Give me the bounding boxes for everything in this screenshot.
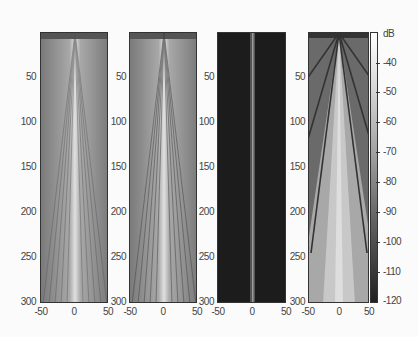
colorbar-tick-mark (376, 272, 380, 273)
colorbar-tick: -70 (383, 146, 396, 157)
colorbar-tick: -80 (383, 176, 396, 187)
y-tick: 50 (98, 71, 126, 82)
heatmap-panel-3 (217, 32, 286, 303)
y-tick: 250 (98, 251, 126, 262)
x-tick: 0 (151, 306, 175, 317)
colorbar-tick-mark (376, 63, 380, 64)
y-tick: 100 (8, 116, 36, 127)
x-tick: 50 (274, 306, 298, 317)
colorbar-tick: -110 (383, 266, 400, 277)
y-tick: 150 (8, 161, 36, 172)
y-tick: 150 (186, 161, 214, 172)
colorbar-tick: -100 (383, 236, 401, 247)
y-tick: 200 (98, 206, 126, 217)
x-tick: -50 (206, 306, 230, 317)
colorbar-tick: -50 (383, 86, 396, 97)
colorbar-tick-mark (376, 182, 380, 183)
x-tick: 50 (96, 306, 120, 317)
x-tick: -50 (296, 306, 320, 317)
x-tick: 0 (327, 306, 351, 317)
y-tick: 200 (186, 206, 214, 217)
y-tick: 200 (277, 206, 305, 217)
colorbar-tick-mark (376, 242, 380, 243)
y-tick: 200 (8, 206, 36, 217)
colorbar-label: dB (383, 28, 394, 39)
y-tick: 100 (186, 116, 214, 127)
colorbar-tick-mark (376, 152, 380, 153)
y-tick: 50 (186, 71, 214, 82)
y-tick: 50 (8, 71, 36, 82)
y-tick: 250 (277, 251, 305, 262)
colorbar-tick: -90 (383, 206, 396, 217)
y-tick: 250 (8, 251, 36, 262)
y-tick: 100 (98, 116, 126, 127)
colorbar-tick: -120 (383, 295, 401, 306)
y-tick: 100 (277, 116, 305, 127)
x-tick: 0 (240, 306, 264, 317)
colorbar-tick: -60 (383, 116, 396, 127)
y-tick: 150 (277, 161, 305, 172)
x-tick: -50 (118, 306, 142, 317)
x-tick: 50 (357, 306, 381, 317)
colorbar-tick-mark (376, 212, 380, 213)
x-tick: 0 (62, 306, 86, 317)
x-tick: -50 (29, 306, 53, 317)
colorbar-tick-mark (376, 122, 380, 123)
colorbar (370, 32, 378, 303)
colorbar-tick: -40 (383, 57, 396, 68)
y-tick: 250 (186, 251, 214, 262)
y-tick: 150 (98, 161, 126, 172)
y-tick: 50 (277, 71, 305, 82)
colorbar-tick-mark (376, 92, 380, 93)
heatmap-panel-4 (308, 32, 369, 303)
